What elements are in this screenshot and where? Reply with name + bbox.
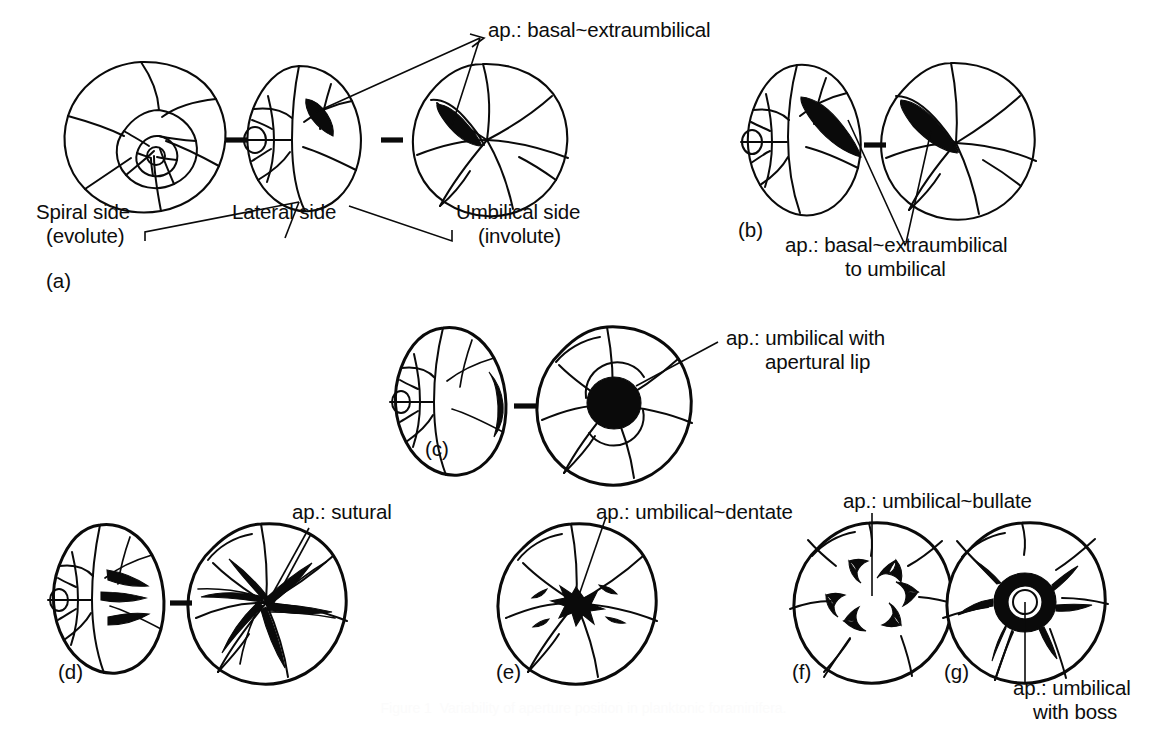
figure-root: ap.: basal~extraumbilical Spiral side (e…: [0, 0, 1167, 737]
panel-b-umbilical-view: [881, 63, 1036, 220]
panel-a-spiral-view: [65, 62, 226, 213]
panel-f-id: (f): [792, 660, 811, 684]
panel-g-id: (g): [944, 660, 969, 684]
panel-a-umbilical-view: [413, 64, 568, 216]
panel-c-umbilical-view: [537, 327, 692, 485]
panel-b-id: (b): [738, 218, 763, 242]
panel-d-lateral-view: [48, 525, 164, 674]
panel-a-spiral-label-line2: (evolute): [46, 224, 124, 248]
figure-caption: Figure 1 Variability of aperture positio…: [381, 700, 787, 716]
panel-e-umbilical-view: [498, 524, 657, 684]
panel-f-aperture-label: ap.: umbilical~bullate: [843, 489, 1032, 513]
panel-a-umbilical-label-line2: (involute): [478, 224, 561, 248]
panel-a-aperture-label: ap.: basal~extraumbilical: [488, 18, 710, 42]
panel-d-aperture-label: ap.: sutural: [292, 500, 392, 524]
panel-b-aperture-label-line1: ap.: basal~extraumbilical: [785, 233, 1007, 257]
panel-b-lateral-view: [741, 65, 861, 216]
panel-a-umbilical-label-line1: Umbilical side: [456, 200, 580, 224]
panel-c-aperture-label-line1: ap.: umbilical with: [726, 326, 885, 350]
panel-e-aperture-label: ap.: umbilical~dentate: [596, 500, 793, 524]
panel-a-spiral-label-line1: Spiral side: [36, 200, 130, 224]
panel-g-aperture-label-line2: with boss: [1033, 700, 1117, 724]
panel-a-lateral-label: Lateral side: [232, 200, 336, 224]
panel-e-id: (e): [496, 660, 521, 684]
panel-g-aperture-label-line1: ap.: umbilical: [1013, 676, 1131, 700]
panel-d-umbilical-view: [188, 524, 347, 684]
panel-d-id: (d): [58, 660, 83, 684]
panel-b-aperture-label-line2: to umbilical: [845, 257, 946, 281]
panel-c-aperture-label-line2: apertural lip: [765, 350, 870, 374]
panel-a-umbilical-leader: [349, 206, 452, 241]
figure-drawing: [0, 0, 1167, 737]
panel-f-umbilical-view: [790, 523, 958, 683]
panel-a-lateral-view: [244, 66, 361, 211]
panel-c-id: (c): [425, 437, 449, 461]
panel-a-id: (a): [46, 269, 71, 293]
